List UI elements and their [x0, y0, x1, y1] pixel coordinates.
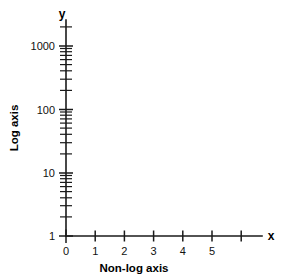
y-axis-variable-label: y — [59, 7, 66, 21]
x-ticklabel-4: 4 — [180, 245, 186, 257]
y-axis-title: Log axis — [8, 105, 20, 152]
plot-area: 1000 100 10 1 0 1 2 3 4 5 y x Log axis N… — [0, 0, 281, 280]
x-ticklabel-0: 0 — [63, 245, 69, 257]
x-ticklabel-1: 1 — [92, 245, 98, 257]
x-axis-title: Non-log axis — [99, 262, 168, 274]
chart-figure: 1000 100 10 1 0 1 2 3 4 5 y x Log axis N… — [0, 0, 281, 280]
x-axis-variable-label: x — [268, 229, 275, 243]
x-ticklabel-2: 2 — [121, 245, 127, 257]
x-ticklabel-5: 5 — [209, 245, 215, 257]
y-ticklabel-1000: 1000 — [31, 40, 55, 52]
y-ticklabel-10: 10 — [43, 167, 55, 179]
y-ticklabel-1: 1 — [49, 230, 55, 242]
y-ticklabel-100: 100 — [37, 104, 55, 116]
x-ticklabel-3: 3 — [151, 245, 157, 257]
